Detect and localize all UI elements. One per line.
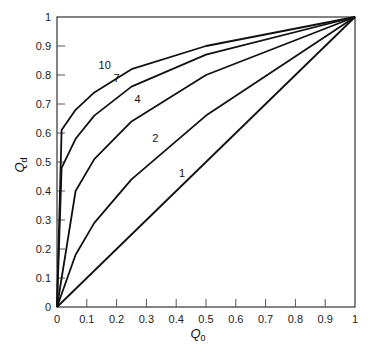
x-tick-label: 1 bbox=[352, 313, 358, 325]
y-tick-label: 0.3 bbox=[36, 214, 51, 226]
y-tick-label: 0.8 bbox=[36, 69, 51, 81]
curve-label-1: 1 bbox=[179, 167, 185, 179]
x-tick-label: 0.6 bbox=[228, 313, 243, 325]
y-axis-title: Qd bbox=[12, 157, 29, 172]
y-tick-label: 0.9 bbox=[36, 40, 51, 52]
y-tick-label: 0.4 bbox=[36, 185, 51, 197]
x-tick-label: 0 bbox=[54, 313, 60, 325]
x-tick-label: 0.1 bbox=[79, 313, 94, 325]
y-tick-label: 0 bbox=[45, 301, 51, 313]
x-tick-label: 0.4 bbox=[169, 313, 184, 325]
y-tick-label: 0.7 bbox=[36, 98, 51, 110]
y-tick-label: 0.5 bbox=[36, 156, 51, 168]
chart: 00.10.20.30.40.50.60.70.80.9100.10.20.30… bbox=[0, 0, 372, 355]
curve-label-4: 4 bbox=[134, 93, 140, 105]
y-tick-label: 0.6 bbox=[36, 127, 51, 139]
x-tick-label: 0.9 bbox=[318, 313, 333, 325]
curve-label-2: 2 bbox=[152, 132, 158, 144]
curve-label-10: 10 bbox=[99, 59, 111, 71]
x-tick-label: 0.3 bbox=[139, 313, 154, 325]
curve-label-7: 7 bbox=[114, 72, 120, 84]
y-tick-label: 1 bbox=[45, 11, 51, 23]
x-tick-label: 0.5 bbox=[198, 313, 213, 325]
x-tick-label: 0.8 bbox=[288, 313, 303, 325]
y-tick-label: 0.1 bbox=[36, 272, 51, 284]
x-tick-label: 0.2 bbox=[109, 313, 124, 325]
y-tick-label: 0.2 bbox=[36, 243, 51, 255]
curve-labels: 124710 bbox=[99, 59, 186, 178]
x-axis-title: Q0 bbox=[190, 326, 205, 343]
x-tick-label: 0.7 bbox=[258, 313, 273, 325]
